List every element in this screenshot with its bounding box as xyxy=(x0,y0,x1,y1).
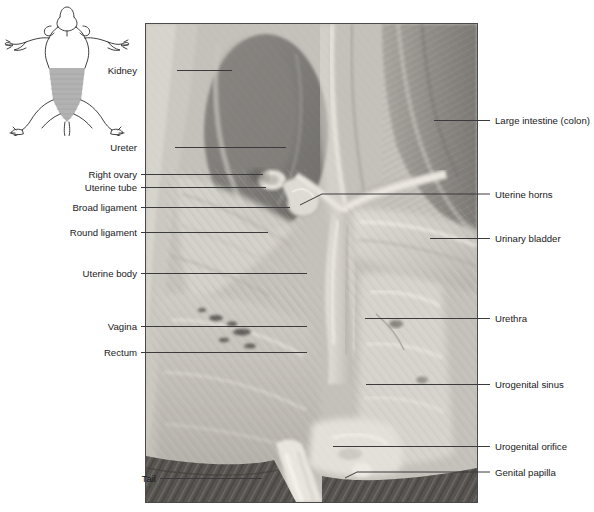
label-vagina[interactable]: Vagina xyxy=(108,321,137,332)
snout-right xyxy=(74,17,77,27)
ear-left xyxy=(44,26,54,36)
leader-kidney xyxy=(177,70,232,71)
label-uterine-tube-text: Uterine tube xyxy=(85,182,137,193)
hindlimb-left-inner xyxy=(42,114,60,128)
torso-left xyxy=(45,38,49,68)
label-right-ovary-text: Right ovary xyxy=(88,169,137,180)
label-tail[interactable]: Tail xyxy=(142,473,156,484)
label-kidney[interactable]: Kidney xyxy=(108,65,137,76)
leader-genital-papilla xyxy=(345,455,490,479)
leader-uterine-tube xyxy=(141,187,266,188)
specimen-photograph xyxy=(145,23,478,503)
leader-rectum xyxy=(141,352,307,353)
label-vagina-text: Vagina xyxy=(108,321,137,332)
label-urogenital-orifice-text: Urogenital orifice xyxy=(495,441,567,452)
label-uterine-body[interactable]: Uterine body xyxy=(83,268,137,279)
leader-urogenital-orifice xyxy=(333,446,490,447)
label-urogenital-sinus[interactable]: Urogenital sinus xyxy=(495,379,564,390)
label-urogenital-orifice[interactable]: Urogenital orifice xyxy=(495,441,567,452)
label-urethra[interactable]: Urethra xyxy=(495,313,527,324)
label-ureter-text: Ureter xyxy=(110,142,137,153)
label-urogenital-sinus-text: Urogenital sinus xyxy=(495,379,564,390)
hindlimb-right xyxy=(81,100,112,130)
label-genital-papilla[interactable]: Genital papilla xyxy=(495,467,556,478)
leader-urinary-bladder xyxy=(430,238,490,239)
leader-tail xyxy=(160,478,262,479)
label-round-ligament[interactable]: Round ligament xyxy=(70,227,137,238)
hindlimb-right-inner xyxy=(74,114,92,128)
label-urinary-bladder[interactable]: Urinary bladder xyxy=(495,233,561,244)
leader-round-ligament xyxy=(141,232,268,233)
tail-outline xyxy=(64,122,70,136)
muzzle xyxy=(58,27,76,31)
snout-left xyxy=(57,17,60,27)
label-urethra-text: Urethra xyxy=(495,313,527,324)
label-large-intestine[interactable]: Large intestine (colon) xyxy=(495,115,590,126)
label-kidney-text: Kidney xyxy=(108,65,137,76)
label-genital-papilla-text: Genital papilla xyxy=(495,467,556,478)
leader-urogenital-sinus xyxy=(366,384,490,385)
label-broad-ligament[interactable]: Broad ligament xyxy=(72,202,137,213)
hindlimb-left xyxy=(22,100,53,130)
torso-right xyxy=(85,38,89,68)
leader-urethra xyxy=(365,318,490,319)
hindpaw-right xyxy=(111,129,123,134)
forelimb-left xyxy=(12,38,49,45)
leader-uterine-horns xyxy=(300,176,490,206)
forelimb-right xyxy=(85,38,122,45)
label-uterine-horns-text: Uterine horns xyxy=(495,189,553,200)
label-ureter[interactable]: Ureter xyxy=(110,142,137,153)
leader-large-intestine xyxy=(434,120,490,121)
neck-left xyxy=(49,27,58,38)
leader-uterine-body xyxy=(141,273,307,274)
neck-right xyxy=(76,27,85,38)
label-broad-ligament-text: Broad ligament xyxy=(72,202,137,213)
label-uterine-horns[interactable]: Uterine horns xyxy=(495,189,553,200)
label-urinary-bladder-text: Urinary bladder xyxy=(495,233,561,244)
figure-plate: Kidney Ureter Right ovary Uterine tube B… xyxy=(0,0,594,512)
label-round-ligament-text: Round ligament xyxy=(70,227,137,238)
label-tail-text: Tail xyxy=(142,473,156,484)
forepaw-left xyxy=(5,43,12,47)
label-right-ovary[interactable]: Right ovary xyxy=(88,169,137,180)
head-outline xyxy=(60,7,74,17)
photo-grain xyxy=(146,24,477,502)
forelimb-left-lower xyxy=(14,42,26,50)
leader-broad-ligament xyxy=(141,207,290,208)
forelimb-right-lower xyxy=(108,42,120,50)
hindpaw-left xyxy=(11,129,23,134)
ear-right xyxy=(80,26,90,36)
label-uterine-body-text: Uterine body xyxy=(83,268,137,279)
leader-ureter xyxy=(175,147,286,148)
label-uterine-tube[interactable]: Uterine tube xyxy=(85,182,137,193)
label-rectum[interactable]: Rectum xyxy=(104,347,137,358)
label-rectum-text: Rectum xyxy=(104,347,137,358)
leader-right-ovary xyxy=(141,174,263,175)
forepaw-right xyxy=(122,43,129,47)
label-large-intestine-text: Large intestine (colon) xyxy=(495,115,590,126)
leader-vagina xyxy=(141,326,307,327)
